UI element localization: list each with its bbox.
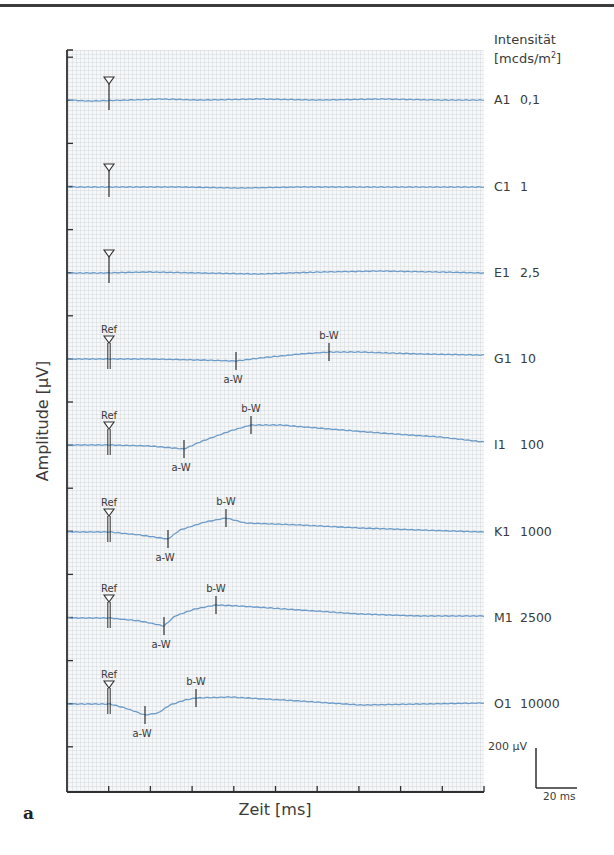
trace-label-i1: I1100 (494, 437, 544, 452)
b-wave-marker: b-W (241, 403, 261, 434)
scale-bar-amplitude-label: 200 µV (488, 740, 527, 753)
legend-unit-post: ] (556, 51, 561, 66)
ref-marker: Ref (101, 669, 118, 714)
legend-title-line2: [mcds/m2] (494, 48, 561, 67)
b-wave-label: b-W (206, 583, 226, 594)
trace-id: I1 (494, 437, 520, 452)
ref-marker (104, 250, 114, 283)
ref-marker (104, 77, 114, 110)
legend-title: Intensität [mcds/m2] (494, 32, 561, 67)
trace-label-k1: K11000 (494, 524, 552, 539)
ref-label: Ref (101, 324, 118, 335)
b-wave-marker: b-W (216, 496, 236, 527)
trace-id: A1 (494, 92, 520, 107)
trace-id: K1 (494, 524, 520, 539)
ref-label: Ref (101, 583, 118, 594)
trace-e1 (68, 271, 484, 275)
trace-id: G1 (494, 351, 520, 366)
x-axis-label: Zeit [ms] (238, 800, 311, 819)
a-wave-marker: a-W (155, 530, 174, 563)
trace-intensity: 0,1 (520, 92, 540, 107)
legend-title-line1: Intensität (494, 32, 561, 48)
trace-intensity: 10000 (520, 696, 560, 711)
ref-label: Ref (101, 497, 118, 508)
trace-c1 (68, 187, 484, 189)
trace-id: O1 (494, 696, 520, 711)
trace-label-e1: E12,5 (494, 265, 540, 280)
trace-a1 (68, 99, 484, 102)
ref-label: Ref (101, 410, 118, 421)
erg-traces (68, 99, 484, 715)
b-wave-label: b-W (216, 496, 236, 507)
trace-i1 (68, 425, 484, 449)
a-wave-label: a-W (171, 462, 190, 473)
chart-canvas: Refa-Wb-WRefa-Wb-WRefa-Wb-WRefa-Wb-WRefa… (0, 0, 614, 855)
scale-bar (536, 748, 577, 788)
trace-label-a1: A10,1 (494, 92, 540, 107)
b-wave-marker: b-W (319, 330, 339, 361)
trace-label-c1: C11 (494, 179, 528, 194)
b-wave-label: b-W (319, 330, 339, 341)
axes (67, 50, 484, 792)
a-wave-marker: a-W (223, 352, 242, 385)
panel-letter: a (23, 803, 34, 823)
ref-marker (104, 164, 114, 197)
trace-id: M1 (494, 610, 520, 625)
ref-marker: Ref (101, 583, 118, 628)
b-wave-marker: b-W (206, 583, 226, 614)
trace-id: E1 (494, 265, 520, 280)
trace-o1 (68, 697, 484, 715)
trace-intensity: 100 (520, 437, 544, 452)
ref-label: Ref (101, 669, 118, 680)
a-wave-label: a-W (132, 728, 151, 739)
trace-intensity: 1 (520, 179, 528, 194)
trace-label-o1: O110000 (494, 696, 560, 711)
trace-intensity: 10 (520, 351, 536, 366)
a-wave-label: a-W (223, 374, 242, 385)
trace-intensity: 2,5 (520, 265, 540, 280)
ref-marker: Ref (101, 410, 118, 455)
a-wave-marker: a-W (171, 440, 190, 473)
ref-marker: Ref (101, 497, 118, 542)
b-wave-marker: b-W (186, 676, 206, 707)
trace-intensity: 1000 (520, 524, 552, 539)
trace-k1 (68, 518, 484, 539)
a-wave-label: a-W (151, 639, 170, 650)
legend-unit-pre: [mcds/m (494, 51, 551, 66)
scale-bar-time-label: 20 ms (543, 790, 575, 802)
trace-label-g1: G110 (494, 351, 536, 366)
a-wave-label: a-W (155, 552, 174, 563)
y-axis-label: Amplitude [µV] (33, 361, 52, 482)
trace-g1 (68, 352, 484, 362)
b-wave-label: b-W (186, 676, 206, 687)
ref-marker: Ref (101, 324, 118, 369)
trace-id: C1 (494, 179, 520, 194)
b-wave-label: b-W (241, 403, 261, 414)
trace-m1 (68, 605, 484, 626)
wave-markers: Refa-Wb-WRefa-Wb-WRefa-Wb-WRefa-Wb-WRefa… (101, 77, 339, 739)
trace-label-m1: M12500 (494, 610, 552, 625)
trace-intensity: 2500 (520, 610, 552, 625)
